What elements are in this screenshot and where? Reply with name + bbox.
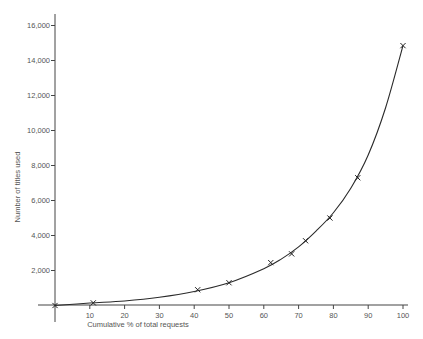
y-tick-label: 10,000 [27, 126, 50, 135]
y-axis-ticks: 2,0004,0006,0008,00010,00012,00014,00016… [27, 21, 55, 275]
y-tick-label: 14,000 [27, 56, 50, 65]
y-tick-label: 8,000 [31, 161, 50, 170]
x-tick-label: 60 [260, 311, 268, 320]
x-tick-label: 70 [294, 311, 302, 320]
x-marker [226, 280, 231, 285]
x-marker [268, 260, 273, 265]
x-tick-label: 20 [120, 311, 128, 320]
x-axis-title: Cumulative % of total requests [87, 320, 189, 329]
y-tick-label: 6,000 [31, 196, 50, 205]
x-tick-label: 90 [364, 311, 372, 320]
x-axis-ticks: 102030405060708090100 [86, 305, 410, 320]
x-axis: 102030405060708090100 Cumulative % of to… [38, 305, 409, 329]
fitted-curve [55, 46, 403, 306]
x-tick-label: 80 [329, 311, 337, 320]
y-tick-label: 4,000 [31, 231, 50, 240]
x-tick-label: 50 [225, 311, 233, 320]
data-markers [52, 43, 405, 308]
x-tick-label: 30 [155, 311, 163, 320]
chart: 2,0004,0006,0008,00010,00012,00014,00016… [0, 0, 423, 339]
x-marker [195, 287, 200, 292]
x-marker [303, 238, 308, 243]
x-tick-label: 10 [86, 311, 94, 320]
plot-area [52, 43, 405, 308]
y-tick-label: 2,000 [31, 266, 50, 275]
y-axis-title: Number of titles used [13, 152, 22, 223]
y-tick-label: 12,000 [27, 91, 50, 100]
x-tick-label: 40 [190, 311, 198, 320]
y-axis: 2,0004,0006,0008,00010,00012,00014,00016… [13, 14, 55, 322]
x-tick-label: 100 [397, 311, 410, 320]
y-tick-label: 16,000 [27, 21, 50, 30]
